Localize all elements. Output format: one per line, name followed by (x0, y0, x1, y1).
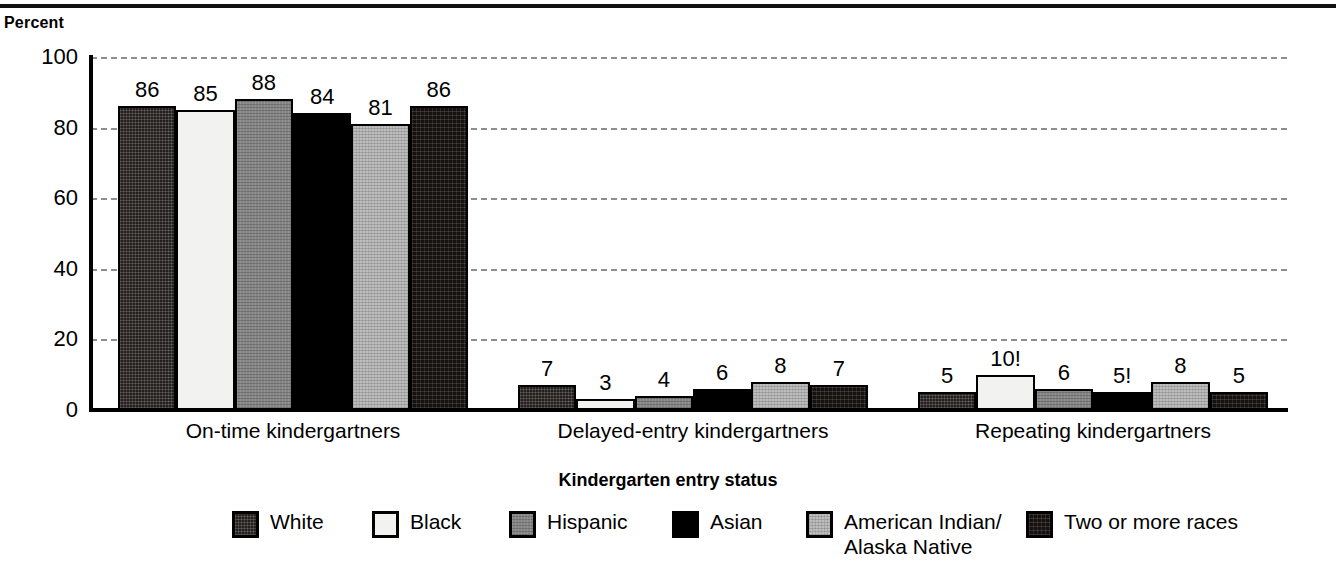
y-tick-label-100: 100 (8, 46, 78, 68)
bar[interactable] (693, 389, 751, 410)
legend-item[interactable]: American Indian/ Alaska Native (806, 509, 1002, 559)
legend-item[interactable]: White (232, 509, 324, 538)
legend-item[interactable]: Asian (672, 509, 763, 538)
bar[interactable] (293, 113, 351, 410)
bar[interactable] (176, 110, 234, 410)
y-tick-label-0: 0 (8, 399, 78, 421)
bar[interactable] (976, 375, 1034, 410)
bar[interactable] (1151, 382, 1209, 410)
legend-swatch-icon (509, 511, 536, 538)
bar[interactable] (235, 99, 293, 410)
y-tick-label-60: 60 (8, 187, 78, 209)
bar-value-label: 5! (1093, 364, 1151, 388)
category-label: On-time kindergartners (118, 419, 468, 443)
bar-value-label: 10! (976, 347, 1034, 371)
bar-value-label: 5 (1210, 364, 1268, 388)
y-axis-tick-labels: 020406080100 (0, 57, 78, 410)
bar[interactable] (410, 106, 468, 410)
y-tick-label-40: 40 (8, 258, 78, 280)
x-axis-title: Kindergarten entry status (0, 470, 1336, 491)
header-rule (0, 4, 1336, 8)
category-label: Repeating kindergartners (918, 419, 1268, 443)
legend-swatch-icon (232, 511, 259, 538)
legend-item[interactable]: Two or more races (1026, 509, 1238, 538)
legend-label: White (270, 509, 324, 534)
bar-value-label: 86 (410, 78, 468, 102)
bar-value-label: 85 (176, 82, 234, 106)
bar-group: 510!65!85 (918, 57, 1268, 410)
y-axis-line (89, 55, 93, 412)
bar-value-label: 4 (635, 368, 693, 392)
bar-value-label: 88 (235, 71, 293, 95)
legend: WhiteBlackHispanicAsianAmerican Indian/ … (0, 509, 1336, 571)
bar[interactable] (351, 124, 409, 410)
bar[interactable] (518, 385, 576, 410)
legend-item[interactable]: Hispanic (509, 509, 628, 538)
x-axis-line (89, 408, 1288, 412)
bar[interactable] (118, 106, 176, 410)
plot-area: 868588848186734687510!65!85 (91, 57, 1287, 410)
bar-value-label: 8 (751, 354, 809, 378)
legend-swatch-icon (372, 511, 399, 538)
legend-label: American Indian/ Alaska Native (844, 509, 1002, 559)
bar-value-label: 7 (810, 357, 868, 381)
category-label: Delayed-entry kindergartners (518, 419, 868, 443)
bar[interactable] (810, 385, 868, 410)
bar-group: 734687 (518, 57, 868, 410)
bar-value-label: 7 (518, 357, 576, 381)
legend-label: Black (410, 509, 461, 534)
legend-swatch-icon (806, 511, 833, 538)
bar[interactable] (1035, 389, 1093, 410)
y-tick-label-20: 20 (8, 328, 78, 350)
y-tick-label-80: 80 (8, 117, 78, 139)
bar-value-label: 3 (576, 371, 634, 395)
bar-value-label: 5 (918, 364, 976, 388)
legend-label: Hispanic (547, 509, 628, 534)
bar-value-label: 6 (693, 361, 751, 385)
legend-swatch-icon (1026, 511, 1053, 538)
bar[interactable] (751, 382, 809, 410)
bar-group: 868588848186 (118, 57, 468, 410)
legend-swatch-icon (672, 511, 699, 538)
bar-value-label: 6 (1035, 361, 1093, 385)
legend-label: Two or more races (1064, 509, 1238, 534)
legend-label: Asian (710, 509, 763, 534)
bar-value-label: 86 (118, 78, 176, 102)
bar-value-label: 81 (351, 96, 409, 120)
legend-item[interactable]: Black (372, 509, 461, 538)
y-axis-title: Percent (4, 14, 64, 32)
bar-value-label: 8 (1151, 354, 1209, 378)
bar-value-label: 84 (293, 85, 351, 109)
